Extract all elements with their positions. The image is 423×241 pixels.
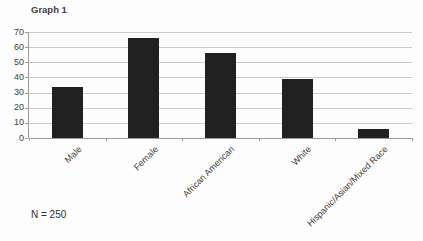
y-axis-tick	[25, 62, 28, 63]
x-axis-label: African American	[181, 144, 236, 199]
y-axis-tick	[25, 93, 28, 94]
x-axis-tick	[182, 138, 183, 141]
y-axis-tick	[25, 32, 28, 33]
y-axis-tick	[25, 77, 28, 78]
bar	[282, 79, 313, 138]
x-axis-label: White	[290, 144, 313, 167]
chart-title: Graph 1	[31, 4, 67, 15]
gridline	[29, 47, 412, 48]
x-axis-tick	[259, 138, 260, 141]
sample-size-label: N = 250	[31, 209, 66, 220]
y-axis-label: 0	[0, 134, 24, 143]
y-axis-tick	[25, 108, 28, 109]
gridline	[29, 138, 412, 139]
x-axis-tick	[106, 138, 107, 141]
y-axis-tick	[25, 47, 28, 48]
x-axis-label: Female	[132, 144, 160, 172]
bar	[205, 53, 236, 138]
y-axis-label: 50	[0, 58, 24, 67]
plot-area: 010203040506070MaleFemaleAfrican America…	[29, 32, 412, 138]
y-axis-label: 20	[0, 103, 24, 112]
y-axis-label: 10	[0, 118, 24, 127]
y-axis-label: 40	[0, 73, 24, 82]
y-axis-tick	[25, 138, 28, 139]
x-axis-tick	[412, 138, 413, 141]
bar	[52, 87, 83, 138]
x-axis-label: Male	[63, 144, 84, 165]
y-axis-label: 70	[0, 28, 24, 37]
y-axis-label: 60	[0, 43, 24, 52]
x-axis-tick	[29, 138, 30, 141]
chart-window: Graph 1 010203040506070MaleFemaleAfrican…	[0, 0, 423, 241]
gridline	[29, 32, 412, 33]
y-axis-tick	[25, 123, 28, 124]
bar	[358, 129, 389, 138]
y-axis-label: 30	[0, 88, 24, 97]
x-axis-label: Hispanic/Asian/Mixed Race	[305, 144, 390, 229]
bar	[128, 38, 159, 138]
x-axis-tick	[335, 138, 336, 141]
